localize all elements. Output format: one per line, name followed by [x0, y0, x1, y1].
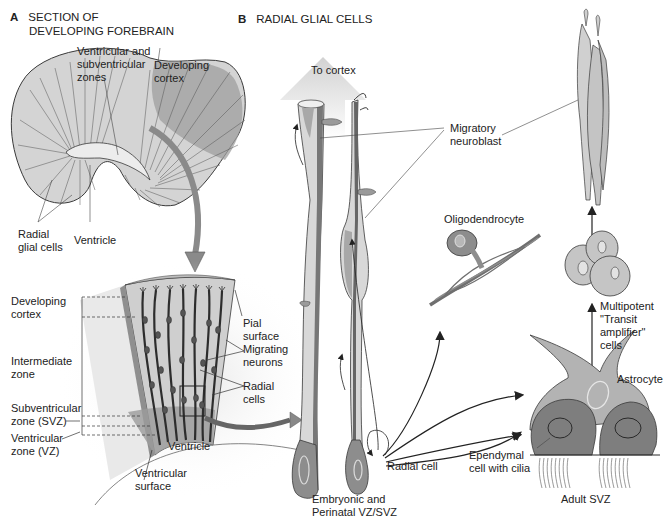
- zone-intermediate: Intermediatezone: [11, 355, 72, 381]
- panel-b-letter: B: [238, 13, 246, 25]
- radial-glial-fibers: [292, 94, 376, 499]
- label-to-cortex: To cortex: [311, 64, 356, 77]
- label-ventricular-surface: Ventricularsurface: [135, 467, 187, 493]
- oligodendrocyte-cell: [430, 230, 540, 305]
- label-radial-cell: Radial cell: [387, 460, 438, 473]
- transit-amplifier-cells: [565, 231, 630, 296]
- panel-a-title-line1: SECTION OF: [28, 11, 98, 23]
- label-embryonic-vz-svz: Embryonic andPerinatal VZ/SVZ: [312, 493, 397, 517]
- label-ventricle-block: Ventricle: [168, 440, 210, 453]
- zone-developing-cortex: Developingcortex: [11, 295, 66, 321]
- label-migrating-neurons: Migratingneurons: [243, 343, 288, 369]
- label-astrocyte: Astrocyte: [617, 373, 663, 386]
- label-adult-svz: Adult SVZ: [561, 493, 611, 506]
- neuroblast-chain: [577, 9, 609, 205]
- label-ventricle-a: Ventricle: [74, 234, 116, 247]
- panel-b-title-text: RADIAL GLIAL CELLS: [256, 13, 372, 25]
- cortical-block: [55, 260, 325, 505]
- zone-vz: Ventricularzone (VZ): [11, 432, 63, 458]
- label-radial-glial-cells: Radialglial cells: [18, 228, 63, 254]
- label-developing-cortex-a: Developingcortex: [154, 59, 209, 85]
- label-oligodendrocyte: Oligodendrocyte: [444, 213, 524, 226]
- panel-a-title-line2: DEVELOPING FOREBRAIN: [10, 25, 174, 37]
- zone-svz: Subventricularzone (SVZ): [11, 402, 81, 428]
- panel-a-title: ASECTION OF DEVELOPING FOREBRAIN: [10, 10, 174, 38]
- label-migratory-neuroblast: Migratoryneuroblast: [450, 122, 501, 148]
- adult-svz-cells: [530, 330, 660, 488]
- panel-a-letter: A: [10, 11, 18, 23]
- label-vz-svz: Ventricular andsubventricularzones: [77, 45, 150, 84]
- label-pial-surface: Pialsurface: [243, 317, 279, 343]
- label-multipotent-cells: Multipotent"Transitamplifier"cells: [600, 300, 654, 352]
- panel-b-title: BRADIAL GLIAL CELLS: [238, 12, 372, 26]
- label-radial-cells: Radialcells: [243, 380, 274, 406]
- label-ependymal-cell: Ependymalcell with cilia: [469, 449, 530, 475]
